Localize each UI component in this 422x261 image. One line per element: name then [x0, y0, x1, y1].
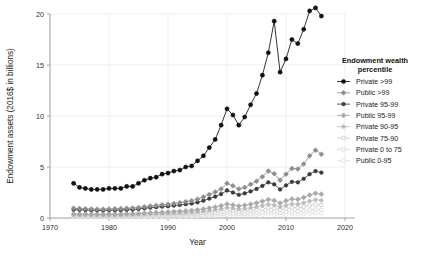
x-tick-label: 1990 — [160, 223, 176, 232]
data-point — [213, 137, 217, 141]
legend-item-0[interactable]: Private >99 — [333, 77, 417, 88]
data-point — [296, 41, 300, 45]
y-tick-label: 10 — [36, 112, 44, 121]
legend-item-5[interactable]: Private 75-90 — [333, 134, 417, 145]
legend-item-2[interactable]: Private 95-99 — [333, 100, 417, 111]
data-point — [260, 199, 265, 204]
data-point — [148, 176, 152, 180]
data-point — [272, 207, 276, 211]
data-point — [225, 107, 229, 111]
data-point — [260, 73, 264, 77]
data-point — [272, 203, 276, 207]
data-point — [154, 175, 158, 179]
chart-container: 05101520197019801990200020102020 Endowme… — [0, 0, 422, 261]
data-point — [313, 6, 317, 10]
data-point — [207, 192, 212, 197]
data-point — [278, 70, 282, 74]
data-point — [290, 37, 294, 41]
data-point — [213, 189, 218, 194]
data-point — [230, 183, 235, 188]
data-point — [266, 206, 270, 210]
data-point — [319, 192, 324, 197]
data-point — [308, 9, 312, 13]
line-chart-plot: 05101520197019801990200020102020 Endowme… — [0, 0, 422, 261]
y-tick-label: 5 — [40, 163, 44, 172]
y-axis-title: Endowment assets (2016$ in billions) — [6, 48, 15, 184]
legend-item-7[interactable]: Public 0-95 — [333, 156, 417, 167]
x-tick-label: 1980 — [101, 223, 117, 232]
data-point — [342, 136, 346, 140]
data-point — [213, 195, 217, 199]
data-point — [219, 203, 224, 208]
data-point — [302, 209, 306, 213]
data-point — [289, 197, 294, 202]
legend-item-6[interactable]: Private 0 to 75 — [333, 145, 417, 156]
legend-item-4[interactable]: Private 90-95 — [333, 122, 417, 133]
data-point — [190, 164, 194, 168]
data-point — [296, 180, 300, 184]
chart-legend[interactable]: Endowment wealthpercentilePrivate >99Pub… — [333, 56, 417, 167]
data-point — [314, 211, 318, 215]
data-point — [302, 205, 306, 209]
y-tick-label: 20 — [36, 10, 44, 19]
data-point — [83, 186, 87, 190]
data-point — [320, 208, 324, 212]
data-point — [242, 203, 247, 208]
legend-item-3[interactable]: Public 95-99 — [333, 111, 417, 122]
data-point — [236, 186, 241, 191]
data-point — [313, 191, 318, 196]
data-point — [207, 146, 211, 150]
data-point — [166, 171, 170, 175]
data-point — [172, 169, 176, 173]
data-point — [278, 201, 283, 206]
legend-title-line2: percentile — [358, 65, 392, 74]
data-point — [178, 168, 182, 172]
data-point — [113, 186, 117, 190]
data-point — [284, 198, 289, 203]
data-point — [243, 115, 247, 119]
data-point — [314, 208, 318, 212]
data-point — [319, 152, 324, 157]
data-point — [284, 57, 288, 61]
data-point — [219, 192, 223, 196]
data-point — [243, 191, 247, 195]
data-point — [342, 147, 346, 151]
data-point — [266, 210, 270, 214]
x-tick-label: 2020 — [337, 223, 353, 232]
data-point — [319, 14, 323, 18]
data-point — [89, 187, 93, 191]
data-point — [236, 203, 241, 208]
data-point — [219, 123, 223, 127]
data-point — [308, 172, 312, 176]
legend-item-label: Public 95-99 — [356, 112, 395, 120]
data-point — [249, 103, 253, 107]
data-point — [278, 188, 282, 192]
data-point — [261, 184, 265, 188]
data-point — [272, 182, 276, 186]
data-point — [225, 189, 229, 193]
y-tick-label: 0 — [40, 214, 44, 223]
data-point — [272, 198, 277, 203]
legend-item-label: Public 0-95 — [356, 157, 392, 165]
legend-item-label: Private 90-95 — [356, 123, 398, 131]
data-point — [308, 208, 312, 212]
data-point — [101, 187, 105, 191]
data-point — [295, 197, 300, 202]
data-point — [107, 186, 111, 190]
data-point — [290, 206, 294, 210]
data-point — [284, 204, 288, 208]
tick-labels: 05101520197019801990200020102020 — [36, 10, 353, 232]
data-point — [342, 125, 346, 129]
data-point — [314, 203, 318, 207]
data-point — [254, 91, 258, 95]
data-point — [131, 184, 135, 188]
data-point — [266, 51, 270, 55]
data-point — [296, 206, 300, 210]
data-point — [308, 199, 312, 203]
data-point — [302, 177, 306, 181]
data-point — [314, 198, 318, 202]
data-point — [272, 19, 276, 23]
data-point — [201, 195, 206, 200]
legend-item-1[interactable]: Public >99 — [333, 88, 417, 99]
x-tick-label: 2010 — [278, 223, 294, 232]
